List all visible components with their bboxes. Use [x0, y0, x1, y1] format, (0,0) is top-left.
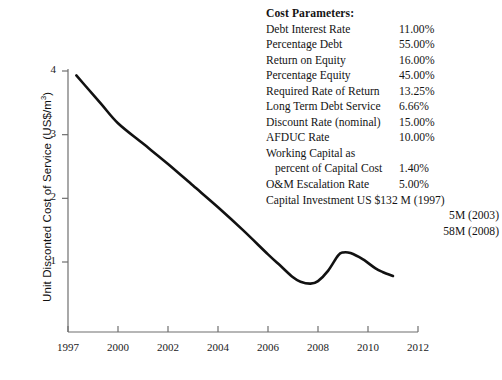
cost-parameter-value: 16.00%: [399, 53, 435, 69]
cost-parameter-row: Percentage Equity45.00%: [266, 68, 502, 84]
cost-parameter-label: Debt Interest Rate: [266, 22, 350, 38]
cost-parameter-label: percent of Capital Cost: [266, 161, 382, 177]
y-axis-tick-label: 2: [34, 190, 56, 202]
y-axis-ticks: [62, 71, 68, 262]
cost-parameter-value: 6.66%: [399, 99, 429, 115]
cost-parameter-value: 1.40%: [399, 161, 429, 177]
cost-parameter-label: Required Rate of Return: [266, 84, 380, 100]
capital-investment-row: Capital Investment US $132 M (1997): [266, 193, 502, 209]
y-axis-tick-label: 3: [34, 127, 56, 139]
chart-figure: Unit Disconted Cost of Service (US$/m3) …: [0, 0, 502, 380]
cost-parameter-row: O&M Escalation Rate5.00%: [266, 177, 502, 193]
cost-parameter-label: Discount Rate (nominal): [266, 115, 381, 131]
capital-investment-continuation: 5M (2003)58M (2008): [266, 208, 502, 239]
cost-parameter-row: Long Term Debt Service6.66%: [266, 99, 502, 115]
cost-parameter-row: Discount Rate (nominal)15.00%: [266, 115, 502, 131]
cost-parameter-value: 15.00%: [399, 115, 435, 131]
cost-parameter-row: percent of Capital Cost1.40%: [266, 161, 502, 177]
x-axis-tick-label: 2012: [396, 341, 440, 353]
y-axis-tick-label: 1: [34, 254, 56, 266]
cost-parameters-block: Cost Parameters: Debt Interest Rate11.00…: [266, 6, 502, 239]
x-axis-tick-label: 2008: [296, 341, 340, 353]
x-axis-tick-label: 2010: [346, 341, 390, 353]
cost-parameters-title: Cost Parameters:: [266, 6, 502, 22]
cost-parameter-row: Working Capital as: [266, 146, 502, 162]
cost-parameters-rows: Debt Interest Rate11.00%Percentage Debt5…: [266, 22, 502, 193]
capital-investment-value: 5M (2003): [266, 208, 502, 224]
cost-parameter-label: AFDUC Rate: [266, 130, 329, 146]
cost-parameter-row: Required Rate of Return13.25%: [266, 84, 502, 100]
capital-investment-value: 58M (2008): [266, 224, 502, 240]
capital-investment-label: Capital Investment US $132 M (1997): [266, 194, 445, 207]
y-axis-tick-label: 4: [34, 63, 56, 75]
cost-parameter-label: Percentage Debt: [266, 37, 342, 53]
x-axis-tick-label: 2002: [146, 341, 190, 353]
cost-parameter-value: 13.25%: [399, 84, 435, 100]
x-axis-tick-label: 2000: [96, 341, 140, 353]
cost-parameter-value: 5.00%: [399, 177, 429, 193]
x-axis-tick-label: 2006: [246, 341, 290, 353]
cost-parameter-row: Return on Equity16.00%: [266, 53, 502, 69]
x-axis-tick-label: 2004: [196, 341, 240, 353]
x-axis-tick-label: 1997: [46, 341, 90, 353]
cost-parameter-row: AFDUC Rate10.00%: [266, 130, 502, 146]
cost-parameter-value: 10.00%: [399, 130, 435, 146]
cost-parameter-value: 55.00%: [399, 37, 435, 53]
cost-parameter-label: Working Capital as: [266, 146, 355, 162]
cost-parameter-value: 45.00%: [399, 68, 435, 84]
cost-parameter-row: Percentage Debt55.00%: [266, 37, 502, 53]
cost-parameter-value: 11.00%: [399, 22, 434, 38]
cost-parameter-row: Debt Interest Rate11.00%: [266, 22, 502, 38]
x-axis-ticks: [68, 326, 418, 332]
cost-parameter-label: Return on Equity: [266, 53, 346, 69]
cost-parameter-label: O&M Escalation Rate: [266, 177, 369, 193]
cost-parameter-label: Percentage Equity: [266, 68, 351, 84]
cost-parameter-label: Long Term Debt Service: [266, 99, 381, 115]
